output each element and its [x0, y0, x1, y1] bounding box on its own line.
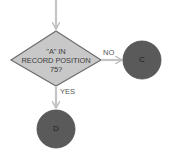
decision-text: "A" IN RECORD POSITION 75?: [12, 47, 100, 74]
no-branch-label: NO: [103, 49, 114, 57]
decision-line-3: 75?: [12, 65, 100, 74]
connector-c-label: C: [132, 56, 152, 64]
connector-d-label: D: [46, 125, 66, 133]
flowchart-canvas: "A" IN RECORD POSITION 75? NO YES C D: [0, 0, 170, 154]
flowchart-graphics: [0, 0, 170, 154]
decision-line-2: RECORD POSITION: [12, 56, 100, 65]
decision-line-1: "A" IN: [12, 47, 100, 56]
yes-branch-label: YES: [60, 88, 75, 96]
